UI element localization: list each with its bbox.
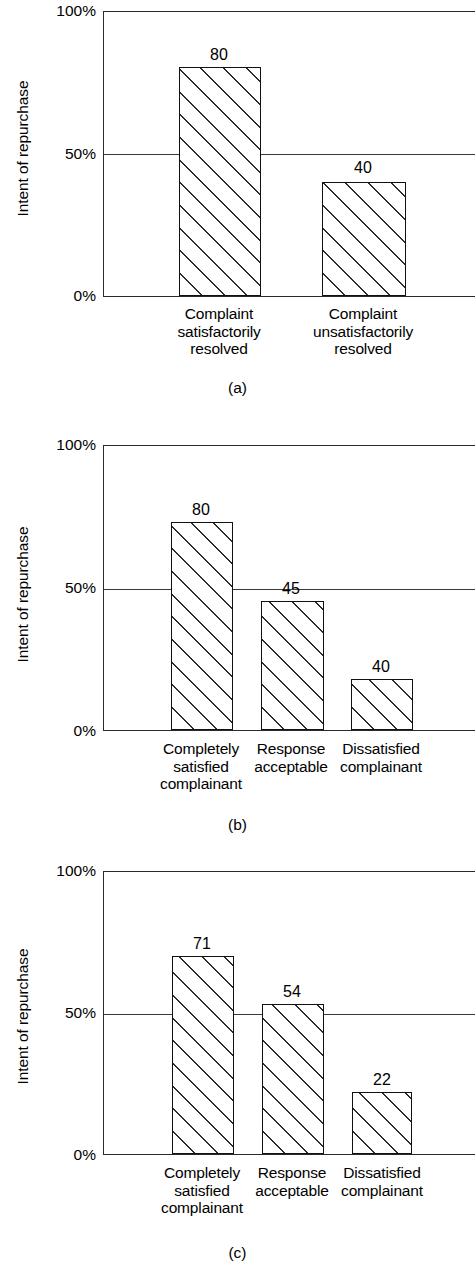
bar-value-label-c-3: 22 [373, 1072, 391, 1088]
bar-value-label-b-1: 80 [192, 502, 210, 518]
y-tick-100-c: 100% [36, 863, 96, 879]
y-tick-100-a: 100% [36, 3, 96, 19]
plot-area-c [103, 871, 475, 1155]
bar-a-1 [179, 67, 261, 296]
x-category-label-c-3: Dissatisfied complainant [316, 1164, 448, 1199]
bar-c-1 [172, 956, 234, 1154]
panel-caption-a: (a) [0, 380, 475, 396]
bar-c-3 [352, 1092, 412, 1154]
y-axis-ticks-a: 100% 50% 0% [30, 0, 96, 300]
y-tick-50-c: 50% [36, 1005, 96, 1021]
bar-b-1 [171, 522, 233, 730]
bar-value-label-a-1: 80 [210, 47, 228, 63]
bar-b-2 [261, 601, 324, 730]
bar-value-label-a-2: 40 [354, 160, 372, 176]
bar-value-label-b-3: 40 [372, 659, 390, 675]
y-tick-50-a: 50% [36, 146, 96, 162]
plot-area-a [103, 11, 475, 297]
chart-panel-a: Intent of repurchase 100% 50% 0% 80 40 C… [0, 0, 475, 400]
reference-line-50-a [104, 154, 475, 155]
chart-panel-b: Intent of repurchase 100% 50% 0% 80 45 4… [0, 434, 475, 834]
y-axis-ticks-b: 100% 50% 0% [30, 434, 96, 734]
y-tick-0-a: 0% [36, 288, 96, 304]
panel-caption-b: (b) [0, 817, 475, 833]
y-axis-ticks-c: 100% 50% 0% [30, 860, 96, 1160]
chart-panel-c: Intent of repurchase 100% 50% 0% 71 54 2… [0, 860, 475, 1266]
y-tick-0-c: 0% [36, 1147, 96, 1163]
y-tick-50-b: 50% [36, 580, 96, 596]
bar-value-label-b-2: 45 [282, 581, 300, 597]
bar-c-2 [262, 1004, 324, 1154]
x-category-label-a-2: Complaint unsatisfactorily resolved [273, 305, 453, 358]
panel-caption-c: (c) [0, 1245, 475, 1261]
bar-a-2 [322, 182, 406, 296]
y-tick-0-b: 0% [36, 723, 96, 739]
x-category-label-b-3: Dissatisfied complainant [315, 740, 447, 775]
y-tick-100-b: 100% [36, 437, 96, 453]
bar-b-3 [351, 679, 413, 730]
bar-value-label-c-1: 71 [193, 936, 211, 952]
bar-value-label-c-2: 54 [283, 984, 301, 1000]
